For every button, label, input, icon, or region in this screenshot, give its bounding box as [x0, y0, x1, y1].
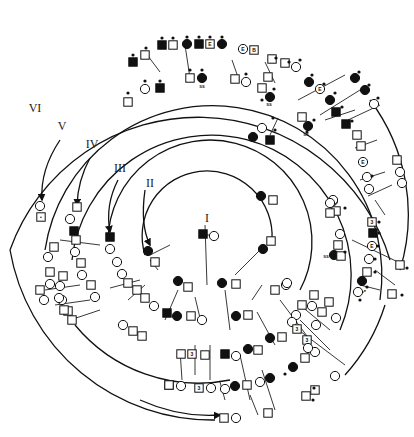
affected-female-icon — [288, 362, 297, 371]
affected-male-icon — [342, 120, 350, 128]
unaffected-female-icon — [395, 167, 404, 176]
unaffected-male-icon — [177, 350, 185, 358]
unaffected-male-icon — [325, 298, 333, 306]
marker-dot-icon — [357, 70, 360, 73]
unaffected-female-icon — [45, 279, 54, 288]
unaffected-female-icon — [54, 293, 63, 302]
unaffected-female-icon — [105, 244, 114, 253]
relationship-line — [225, 290, 230, 330]
affected-female-icon — [248, 132, 257, 141]
arrow-V-icon — [42, 140, 60, 200]
unaffected-female-icon — [149, 301, 158, 310]
unaffected-male-icon — [271, 286, 279, 294]
unaffected-female-icon — [70, 247, 79, 256]
generation-label-IV: IV — [86, 137, 99, 151]
relationship-line — [185, 45, 190, 78]
marker-dot-icon — [373, 257, 376, 260]
unaffected-male-icon — [244, 311, 252, 319]
marker-dot-icon — [271, 116, 274, 119]
unaffected-male-icon — [334, 241, 342, 249]
marker-dot-icon — [171, 36, 174, 39]
unaffected-male-icon — [363, 268, 371, 276]
unaffected-male-icon — [129, 327, 137, 335]
individual-symbols: 3333•EEBEE3E — [35, 39, 406, 422]
annotation: ss — [303, 131, 309, 137]
marker-dot-icon — [400, 293, 403, 296]
unaffected-male-icon — [353, 131, 361, 139]
unaffected-male-icon — [201, 351, 209, 359]
unaffected-female-icon — [39, 295, 48, 304]
relationship-lines — [45, 45, 398, 415]
marker-dot-icon — [188, 68, 191, 71]
unaffected-male-icon — [186, 74, 194, 82]
affected-female-icon — [217, 278, 226, 287]
unaffected-female-icon — [255, 377, 264, 386]
unaffected-male-icon — [310, 291, 318, 299]
unaffected-female-icon — [282, 278, 291, 287]
unaffected-male-icon — [50, 243, 58, 251]
marker-dot-icon — [160, 36, 163, 39]
unaffected-male-icon — [68, 316, 76, 324]
unaffected-male-icon — [264, 73, 272, 81]
generation-arrows — [42, 140, 220, 415]
marker-dot-icon — [343, 250, 346, 253]
unaffected-female-icon — [117, 269, 126, 278]
unaffected-female-icon — [231, 413, 240, 422]
affected-female-icon — [265, 333, 274, 342]
unaffected-male-icon — [124, 279, 132, 287]
unaffected-male-icon — [138, 332, 146, 340]
unaffected-male-icon — [357, 142, 365, 150]
marker-dot-icon — [143, 79, 146, 82]
symbol-note: 3 — [191, 351, 194, 357]
affected-male-icon — [332, 108, 340, 116]
unaffected-female-icon — [331, 313, 340, 322]
affected-female-icon — [350, 73, 359, 82]
relationship-line — [375, 270, 395, 285]
unaffected-male-icon — [232, 280, 240, 288]
unaffected-female-icon — [118, 320, 127, 329]
affected-male-icon — [70, 227, 78, 235]
affected-female-icon — [173, 276, 182, 285]
affected-female-icon — [256, 191, 265, 200]
relationship-line — [375, 200, 385, 215]
unaffected-female-icon — [369, 99, 378, 108]
annotation: ss — [199, 83, 205, 89]
unaffected-male-icon — [165, 381, 173, 389]
unaffected-female-icon — [364, 254, 373, 263]
marker-dot-icon — [244, 72, 247, 75]
unaffected-male-icon — [151, 258, 159, 266]
unaffected-male-icon — [264, 409, 272, 417]
unaffected-female-icon — [364, 184, 373, 193]
affected-female-icon — [303, 121, 312, 130]
affected-female-icon — [243, 344, 252, 353]
unaffected-male-icon — [326, 209, 334, 217]
affected-female-icon — [230, 381, 239, 390]
affected-female-icon — [217, 39, 226, 48]
affected-male-icon — [266, 136, 274, 144]
unaffected-male-icon — [388, 290, 396, 298]
marker-dot-icon — [126, 91, 129, 94]
marker-dot-icon — [373, 270, 376, 273]
marker-dot-icon — [144, 46, 147, 49]
unaffected-female-icon — [362, 172, 371, 181]
marker-dot-icon — [260, 98, 263, 101]
marker-dot-icon — [350, 119, 353, 122]
affected-female-icon — [197, 73, 206, 82]
unaffected-male-icon — [258, 84, 266, 92]
unaffected-male-icon — [220, 414, 228, 422]
marker-dot-icon — [377, 220, 380, 223]
gen-I-male-icon — [199, 230, 207, 238]
unaffected-male-icon — [396, 261, 404, 269]
marker-dot-icon — [131, 53, 134, 56]
relationship-line — [252, 285, 262, 300]
unaffected-female-icon — [55, 281, 64, 290]
unaffected-female-icon — [335, 229, 344, 238]
unaffected-male-icon — [46, 268, 54, 276]
marker-dot-icon — [312, 386, 315, 389]
unaffected-male-icon — [298, 301, 306, 309]
generation-label-II: II — [146, 176, 154, 190]
affected-male-icon — [221, 350, 229, 358]
marker-dot-icon — [220, 35, 223, 38]
unaffected-female-icon — [303, 343, 312, 352]
marker-dot-icon — [358, 298, 361, 301]
